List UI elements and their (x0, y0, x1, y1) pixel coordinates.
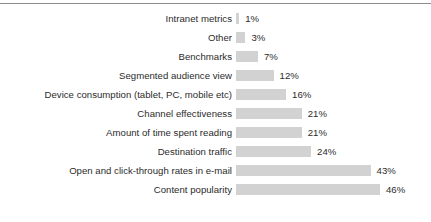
value-label: 3% (245, 32, 265, 43)
value-label: 7% (258, 51, 278, 62)
table-row: Segmented audience view 12% (0, 66, 431, 85)
value-label: 16% (286, 89, 311, 100)
bar-fill (236, 146, 311, 157)
category-label: Channel effectiveness (0, 108, 236, 119)
bar-track: 1% (236, 9, 431, 28)
category-label: Amount of time spent reading (0, 127, 236, 138)
category-label: Benchmarks (0, 51, 236, 62)
category-label: Content popularity (0, 184, 236, 195)
value-label: 1% (239, 13, 259, 24)
bar-fill (236, 184, 380, 195)
bar-rows-container: Intranet metrics 1% Other 3% Benchmarks … (0, 9, 431, 199)
bar-track: 24% (236, 142, 431, 161)
value-label: 46% (380, 184, 405, 195)
bar-track: 43% (236, 161, 431, 180)
table-row: Other 3% (0, 28, 431, 47)
bar-fill (236, 70, 274, 81)
table-row: Intranet metrics 1% (0, 9, 431, 28)
table-row: Device consumption (tablet, PC, mobile e… (0, 85, 431, 104)
category-label: Open and click-through rates in e-mail (0, 165, 236, 176)
value-label: 24% (311, 146, 336, 157)
table-row: Destination traffic 24% (0, 142, 431, 161)
bar-track: 46% (236, 180, 431, 199)
category-label: Intranet metrics (0, 13, 236, 24)
bar-fill (236, 165, 371, 176)
value-label: 21% (302, 127, 327, 138)
bar-track: 7% (236, 47, 431, 66)
bar-fill (236, 32, 245, 43)
bar-fill (236, 89, 286, 100)
table-row: Amount of time spent reading 21% (0, 123, 431, 142)
table-row: Content popularity 46% (0, 180, 431, 199)
category-label: Segmented audience view (0, 70, 236, 81)
top-divider-rule (0, 3, 431, 4)
category-label: Device consumption (tablet, PC, mobile e… (0, 89, 236, 100)
bar-fill (236, 51, 258, 62)
table-row: Open and click-through rates in e-mail 4… (0, 161, 431, 180)
bar-track: 21% (236, 123, 431, 142)
bar-track: 16% (236, 85, 431, 104)
bar-track: 12% (236, 66, 431, 85)
table-row: Benchmarks 7% (0, 47, 431, 66)
value-label: 12% (274, 70, 299, 81)
horizontal-bar-chart: Intranet metrics 1% Other 3% Benchmarks … (0, 0, 431, 222)
category-label: Destination traffic (0, 146, 236, 157)
bar-fill (236, 127, 302, 138)
table-row: Channel effectiveness 21% (0, 104, 431, 123)
value-label: 21% (302, 108, 327, 119)
value-label: 43% (371, 165, 396, 176)
category-label: Other (0, 32, 236, 43)
bar-fill (236, 108, 302, 119)
bar-track: 3% (236, 28, 431, 47)
bar-track: 21% (236, 104, 431, 123)
